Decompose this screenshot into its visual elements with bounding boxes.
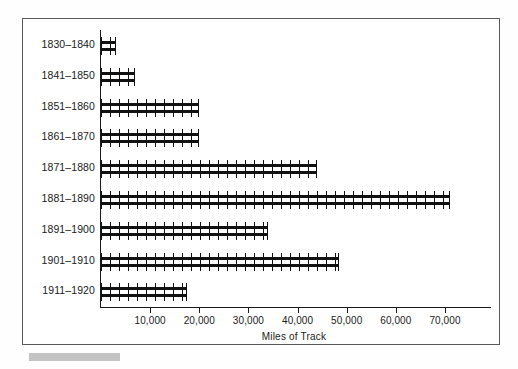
bar-ties <box>101 253 339 271</box>
bar-rail-bottom <box>101 264 339 267</box>
bar-rail-top <box>101 226 268 229</box>
bar-end-tie <box>115 37 116 55</box>
bar-ties <box>101 68 135 86</box>
x-axis-line <box>100 307 491 308</box>
x-tick-label: 40,000 <box>282 315 313 326</box>
bar-1851–1860 <box>101 99 199 115</box>
bar-chart: 1830–18401841–18501851–18601861–18701871… <box>23 19 501 346</box>
category-label: 1891–1900 <box>42 223 95 235</box>
bar-rail-bottom <box>101 294 187 297</box>
bar-ties <box>101 129 199 147</box>
category-label: 1901–1910 <box>42 254 95 266</box>
x-tick-mark <box>445 308 446 313</box>
bar-row: 1871–1880 <box>23 153 501 183</box>
figure-frame: 1830–18401841–18501851–18601861–18701871… <box>22 18 500 345</box>
bar-1911–1920 <box>101 283 187 299</box>
bar-end-tie <box>198 99 199 117</box>
category-label: 1851–1860 <box>42 100 95 112</box>
x-tick-mark <box>396 308 397 313</box>
category-label: 1911–1920 <box>42 284 95 296</box>
bar-1901–1910 <box>101 253 339 269</box>
bar-row: 1901–1910 <box>23 246 501 276</box>
x-tick-mark <box>248 308 249 313</box>
bar-1891–1900 <box>101 222 268 238</box>
bar-row: 1911–1920 <box>23 276 501 306</box>
category-label: 1841–1850 <box>42 69 95 81</box>
bar-ties <box>101 37 116 55</box>
x-tick-label: 60,000 <box>380 315 411 326</box>
bar-ties <box>101 99 199 117</box>
bar-1861–1870 <box>101 129 199 145</box>
x-tick-mark <box>298 308 299 313</box>
bar-row: 1830–1840 <box>23 30 501 60</box>
bar-rail-bottom <box>101 202 450 205</box>
bar-end-tie <box>449 191 450 209</box>
bar-rail-bottom <box>101 140 199 143</box>
bar-row: 1881–1890 <box>23 184 501 214</box>
category-label: 1871–1880 <box>42 161 95 173</box>
bar-1830–1840 <box>101 37 116 53</box>
x-tick-mark <box>347 308 348 313</box>
category-label: 1861–1870 <box>42 130 95 142</box>
bar-row: 1841–1850 <box>23 61 501 91</box>
bar-1881–1890 <box>101 191 450 207</box>
bar-end-tie <box>198 129 199 147</box>
bar-rail-top <box>101 164 317 167</box>
bar-ties <box>101 283 187 301</box>
bar-rail-bottom <box>101 110 199 113</box>
bar-rail-top <box>101 133 199 136</box>
x-axis-title: Miles of Track <box>23 331 501 342</box>
category-label: 1881–1890 <box>42 192 95 204</box>
bar-ties <box>101 222 268 240</box>
x-tick-label: 70,000 <box>429 315 460 326</box>
bar-row: 1891–1900 <box>23 215 501 245</box>
scanned-page: 1830–18401841–18501851–18601861–18701871… <box>0 0 518 369</box>
bar-rail-bottom <box>101 79 135 82</box>
bar-rail-bottom <box>101 48 116 51</box>
bar-ties <box>101 160 317 178</box>
bar-end-tie <box>316 160 317 178</box>
bar-row: 1851–1860 <box>23 92 501 122</box>
category-label: 1830–1840 <box>42 38 95 50</box>
x-tick-mark <box>150 308 151 313</box>
bar-end-tie <box>134 68 135 86</box>
bar-rail-top <box>101 257 339 260</box>
bar-rail-top <box>101 41 116 44</box>
caption-strip <box>29 353 120 361</box>
bar-rail-bottom <box>101 171 317 174</box>
bar-end-tie <box>267 222 268 240</box>
bar-ties <box>101 191 450 209</box>
bar-end-tie <box>338 253 339 271</box>
bar-rail-bottom <box>101 233 268 236</box>
x-tick-label: 50,000 <box>331 315 362 326</box>
bar-rail-top <box>101 72 135 75</box>
bar-rail-top <box>101 195 450 198</box>
bar-1871–1880 <box>101 160 317 176</box>
x-tick-label: 30,000 <box>233 315 264 326</box>
bar-1841–1850 <box>101 68 135 84</box>
x-tick-label: 10,000 <box>135 315 166 326</box>
x-tick-mark <box>199 308 200 313</box>
bar-rail-top <box>101 103 199 106</box>
x-tick-label: 20,000 <box>184 315 215 326</box>
bar-end-tie <box>186 283 187 301</box>
bar-rail-top <box>101 287 187 290</box>
bar-row: 1861–1870 <box>23 122 501 152</box>
x-axis-title-label: Miles of Track <box>262 331 326 342</box>
